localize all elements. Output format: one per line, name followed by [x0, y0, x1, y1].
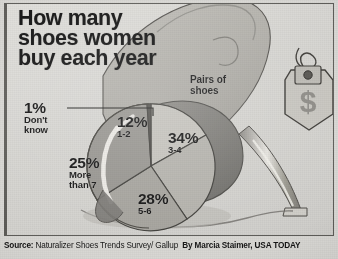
price-tag-icon: $ — [285, 48, 333, 130]
label-12: 12% 1-2 — [117, 114, 147, 139]
pct-25: 25% — [69, 155, 99, 170]
pct-1: 1% — [24, 100, 48, 115]
dollar-sign-glyph: $ — [300, 85, 317, 118]
source-prefix: Source: — [4, 241, 33, 250]
label-dont-know: 1% Don't know — [24, 100, 48, 135]
sub-25: More than 7 — [69, 170, 99, 190]
pct-28: 28% — [138, 191, 168, 206]
sub-28: 5-6 — [138, 206, 168, 216]
page-title: How many shoes women buy each year — [18, 8, 156, 68]
sub-34: 3-4 — [168, 145, 198, 155]
label-28: 28% 5-6 — [138, 191, 168, 216]
label-34: 34% 3-4 — [168, 130, 198, 155]
shoe-heel — [239, 126, 307, 216]
source-text: Naturalizer Shoes Trends Survey/ Gallup — [33, 241, 178, 250]
label-25: 25% More than 7 — [69, 155, 99, 190]
pct-12: 12% — [117, 114, 147, 129]
infographic-snapshot: $ How many shoes women buy each year 1% … — [0, 0, 338, 259]
pct-34: 34% — [168, 130, 198, 145]
byline: By Marcia Staimer, USA TODAY — [182, 241, 300, 250]
sub-1: Don't know — [24, 115, 48, 135]
graphic-panel: $ How many shoes women buy each year 1% … — [4, 3, 334, 236]
sub-12: 1-2 — [117, 129, 147, 139]
callout-pairs-of-shoes: Pairs of shoes — [190, 74, 226, 96]
source-line: Source: Naturalizer Shoes Trends Survey/… — [4, 241, 336, 250]
